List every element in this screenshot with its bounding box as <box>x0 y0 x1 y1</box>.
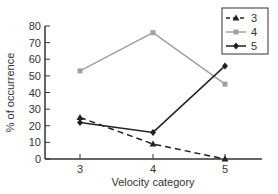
legend-label-3: 3 <box>251 12 257 24</box>
data-point-marker <box>151 30 156 35</box>
x-tick-label: 5 <box>222 163 228 175</box>
legend-label-4: 4 <box>251 26 257 38</box>
y-tick-label: 0 <box>35 153 41 165</box>
x-axis-label: Velocity category <box>111 176 195 188</box>
x-tick-label: 3 <box>77 163 83 175</box>
data-point-marker <box>78 68 83 73</box>
series-line-5 <box>80 66 225 132</box>
y-tick-label: 10 <box>29 136 41 148</box>
series-line-3 <box>80 117 225 159</box>
legend-marker-4 <box>234 30 239 35</box>
series-line-4 <box>80 33 225 85</box>
legend-label-5: 5 <box>251 40 257 52</box>
y-tick-label: 70 <box>29 37 41 49</box>
y-tick-label: 50 <box>29 70 41 82</box>
y-axis-label: % of occurrence <box>4 53 16 132</box>
data-point-marker <box>223 82 228 87</box>
y-tick-label: 60 <box>29 53 41 65</box>
y-tick-label: 20 <box>29 120 41 132</box>
data-point-marker <box>77 119 83 126</box>
y-tick-label: 30 <box>29 103 41 115</box>
y-tick-label: 80 <box>29 20 41 32</box>
x-tick-label: 4 <box>150 163 156 175</box>
legend-box <box>222 8 268 54</box>
y-tick-label: 40 <box>29 87 41 99</box>
line-chart: 01020304050607080345Velocity category% o… <box>0 0 278 194</box>
